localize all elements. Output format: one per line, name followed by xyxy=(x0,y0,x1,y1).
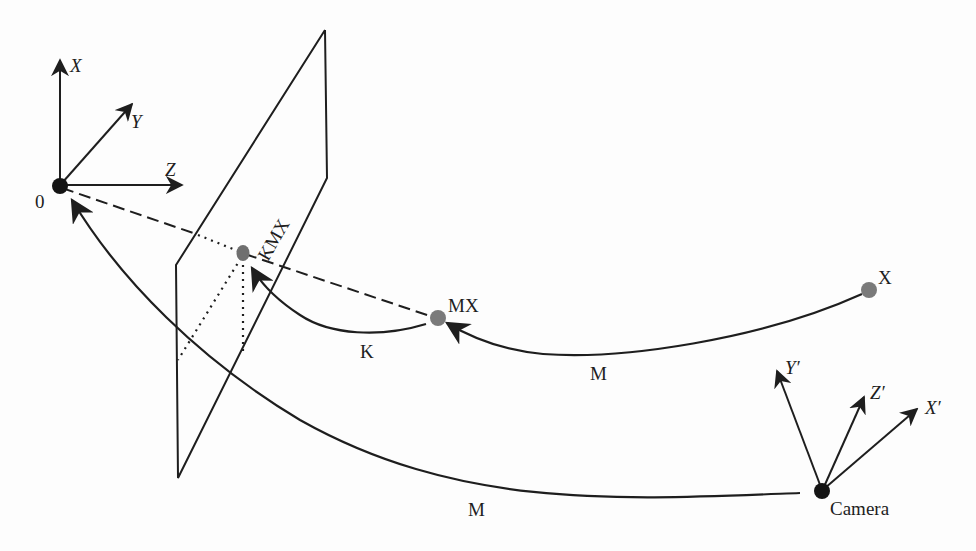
transform-camera-m-label: M xyxy=(468,500,485,519)
world-axes xyxy=(60,60,182,185)
diagram-svg: KMX xyxy=(0,0,976,551)
transform-camera-to-world-curve xyxy=(72,200,800,497)
world-z-axis-label: Z xyxy=(165,160,176,179)
camera-label: Camera xyxy=(830,499,889,518)
point-kmx xyxy=(237,245,250,261)
camera-z-axis-label: Z′ xyxy=(870,383,885,402)
point-mx-label: MX xyxy=(448,296,479,315)
camera-z-axis xyxy=(823,397,864,489)
image-plane xyxy=(176,30,327,478)
camera-center-point xyxy=(814,483,830,499)
world-y-axis xyxy=(62,104,132,183)
transform-m-label: M xyxy=(590,364,607,383)
camera-x-axis xyxy=(825,409,917,488)
world-x-axis-label: X xyxy=(70,56,82,75)
plane-construction-lines xyxy=(178,258,243,360)
point-mx xyxy=(430,310,446,326)
world-origin-label: 0 xyxy=(35,192,45,211)
world-origin-point xyxy=(52,178,68,194)
camera-y-axis-label: Y′ xyxy=(785,358,800,377)
camera-y-axis xyxy=(777,371,822,490)
diagram-canvas: KMX X Y Z 0 MX X K M M Y′ Z′ X′ Camera xyxy=(0,0,976,551)
camera-x-axis-label: X′ xyxy=(925,398,941,417)
point-x xyxy=(861,282,877,298)
transform-k-label: K xyxy=(360,342,374,361)
camera-axes xyxy=(777,371,917,490)
world-y-axis-label: Y xyxy=(131,112,142,131)
point-x-label: X xyxy=(878,268,892,287)
transform-m-curve xyxy=(447,294,862,355)
